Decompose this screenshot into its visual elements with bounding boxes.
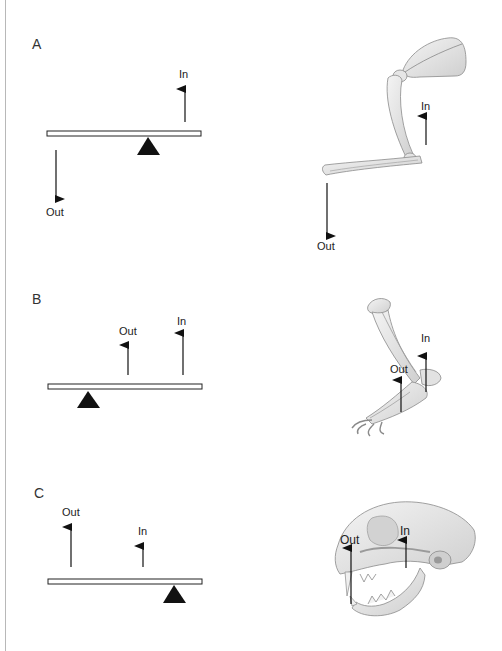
panel-letter-a: A xyxy=(32,36,41,52)
lever-c-out-label: Out xyxy=(62,506,80,518)
panel-letter-c: C xyxy=(34,485,44,501)
diagram-canvas xyxy=(0,0,502,651)
lever-bar xyxy=(47,131,201,136)
panel-a-lever xyxy=(47,89,201,199)
panel-letter-b: B xyxy=(32,291,41,307)
anatomy-a-in-label: In xyxy=(421,100,430,112)
anatomy-a-out-label: Out xyxy=(317,240,335,252)
panel-a-forelimb-drawing xyxy=(322,38,466,236)
lever-b-in-label: In xyxy=(177,315,186,327)
fulcrum-icon xyxy=(77,391,100,408)
panel-b-lever xyxy=(48,333,202,408)
lever-bar xyxy=(48,384,202,389)
panel-c-lever xyxy=(48,527,202,603)
anatomy-b-in-label: In xyxy=(421,332,430,344)
lever-c-in-label: In xyxy=(138,525,147,537)
fulcrum-icon xyxy=(163,585,186,603)
anatomy-c-out-label: Out xyxy=(340,533,359,547)
scapula xyxy=(403,38,466,78)
lever-a-out-label: Out xyxy=(46,206,64,218)
panel-c-skull-drawing xyxy=(335,502,475,616)
mandible xyxy=(352,568,425,616)
lever-a-in-label: In xyxy=(179,68,188,80)
lever-b-out-label: Out xyxy=(119,325,137,337)
anatomy-b-out-label: Out xyxy=(390,363,408,375)
anatomy-c-in-label: In xyxy=(400,524,410,538)
humerus xyxy=(387,75,413,157)
lever-bar xyxy=(48,579,202,584)
fulcrum-icon xyxy=(137,137,160,155)
foot xyxy=(366,382,427,424)
